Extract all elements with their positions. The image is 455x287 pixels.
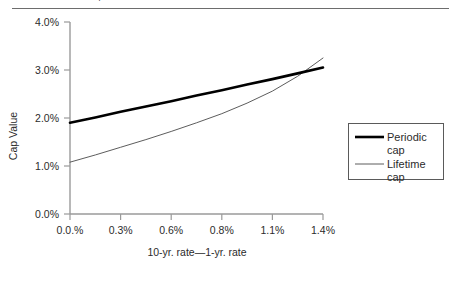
legend-label-lifetime-cap-line2: cap [387,171,405,183]
x-axis-title: 10-yr. rate—1-yr. rate [147,246,246,258]
legend-label-periodic-cap-line2: cap [387,144,405,156]
series-line-periodic-cap [70,68,323,123]
x-tick-label-2: 0.6% [159,224,183,236]
y-tick-label-1: 1.0% [35,160,59,172]
chart-figure: ¡ 0.0% 1.0% 2.0% 3.0% 4.0% [0,0,455,287]
x-tick-label-1: 0.3% [109,224,133,236]
x-tick-marks [70,214,323,220]
x-tick-label-4: 1.1% [260,224,284,236]
legend-label-lifetime-cap-line1: Lifetime [387,158,426,170]
legend-label-periodic-cap-line1: Periodic [387,131,427,143]
y-tick-label-0: 0.0% [35,208,59,220]
x-tick-label-0: 0.0.% [57,224,84,236]
chart-svg: 0.0% 1.0% 2.0% 3.0% 4.0% 0.0.% 0.3% 0.6%… [0,0,455,287]
y-axis-title: Cap Value [7,112,19,160]
plot-series-group [70,58,323,162]
y-tick-marks [64,22,70,214]
series-line-lifetime-cap [70,58,323,162]
clipped-header-text: ¡ [98,0,138,1]
top-horizontal-rule [12,8,449,9]
y-tick-label-3: 3.0% [35,64,59,76]
x-tick-label-5: 1.4% [311,224,335,236]
x-tick-label-3: 0.8% [210,224,234,236]
y-tick-label-2: 2.0% [35,112,59,124]
legend: Periodic cap Lifetime cap [349,124,444,183]
y-tick-label-4: 4.0% [35,16,59,28]
